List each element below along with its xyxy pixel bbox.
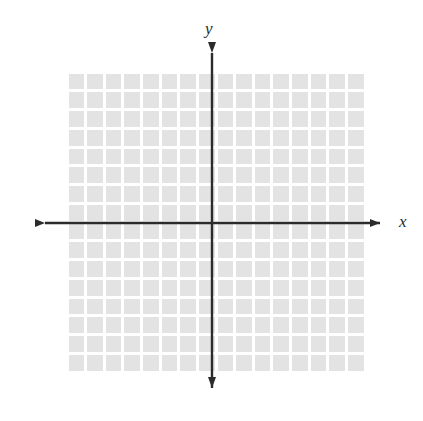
coordinate-plane-svg	[0, 0, 423, 421]
coordinate-plane-figure: y x	[0, 0, 423, 421]
y-axis-label: y	[205, 20, 213, 37]
x-axis-label: x	[399, 213, 407, 230]
